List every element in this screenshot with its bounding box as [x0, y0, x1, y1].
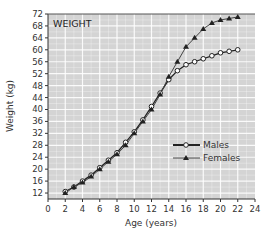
x-axis-label: Age (years) — [125, 218, 177, 228]
y-tick-label: 56 — [32, 57, 43, 67]
x-tick-label: 2 — [63, 204, 68, 214]
y-tick-label: 32 — [32, 128, 43, 138]
x-tick-label: 0 — [45, 204, 50, 214]
x-tick-label: 16 — [181, 204, 192, 214]
x-tick-label: 10 — [129, 204, 140, 214]
y-tick-label: 64 — [32, 33, 43, 43]
y-tick-label: 36 — [32, 116, 43, 126]
y-tick-label: 24 — [32, 152, 43, 162]
legend-label-females: Females — [203, 153, 241, 163]
y-tick-label: 48 — [32, 81, 43, 91]
male-data-point — [235, 48, 240, 53]
y-tick-label: 12 — [32, 188, 43, 198]
male-data-point — [192, 59, 197, 64]
x-tick-label: 24 — [250, 204, 261, 214]
y-tick-label: 40 — [32, 104, 43, 114]
y-tick-label: 72 — [32, 9, 43, 19]
male-data-point — [184, 62, 189, 67]
x-tick-label: 4 — [80, 204, 85, 214]
x-tick-label: 6 — [97, 204, 102, 214]
x-tick-label: 18 — [198, 204, 209, 214]
y-axis-label: Weight (kg) — [5, 80, 15, 132]
x-tick-label: 12 — [146, 204, 157, 214]
y-tick-label: 20 — [32, 164, 43, 174]
y-tick-label: 52 — [32, 69, 43, 79]
x-tick-label: 8 — [114, 204, 119, 214]
y-tick-label: 60 — [32, 45, 43, 55]
y-tick-label: 28 — [32, 140, 43, 150]
male-data-point — [175, 68, 180, 73]
y-tick-label: 68 — [32, 21, 43, 31]
male-data-point — [218, 50, 223, 55]
x-tick-label: 20 — [215, 204, 226, 214]
male-data-point — [210, 53, 215, 58]
x-axis-ticks: 024681012141618202224 — [45, 199, 260, 214]
legend-males-marker-icon — [184, 143, 189, 148]
y-tick-label: 44 — [32, 93, 43, 103]
chart-title: WEIGHT — [53, 18, 92, 29]
male-data-point — [201, 56, 206, 61]
legend-label-males: Males — [203, 140, 229, 150]
y-tick-label: 16 — [32, 176, 43, 186]
weight-chart: 12162024283236404448525660646872 0246810… — [0, 0, 270, 239]
male-data-point — [227, 49, 232, 54]
y-axis-ticks: 12162024283236404448525660646872 — [32, 9, 48, 198]
x-tick-label: 22 — [232, 204, 243, 214]
x-tick-label: 14 — [163, 204, 174, 214]
